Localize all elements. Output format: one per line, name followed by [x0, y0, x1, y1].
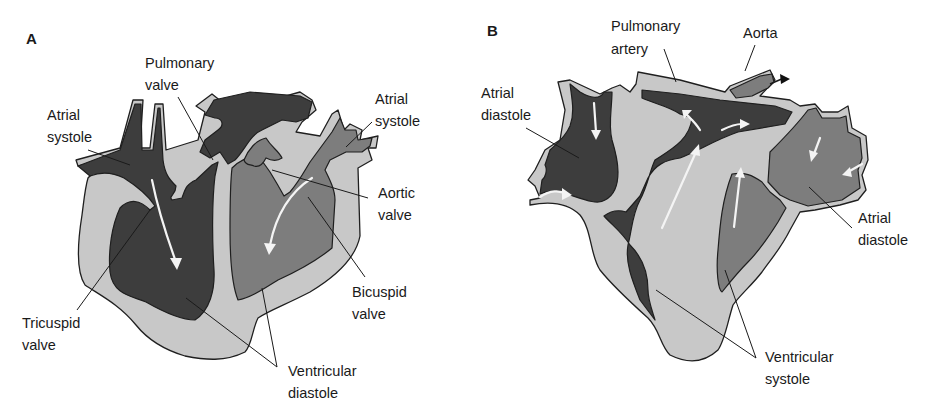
- panel-a-letter: A: [26, 30, 37, 47]
- label-atrial-diastole-left: Atrial diastole: [481, 85, 531, 123]
- label-aorta: Aorta: [743, 25, 779, 41]
- panel-b: B Pulmonary ar: [481, 18, 908, 387]
- leader-aorta: [745, 45, 755, 71]
- label-bicuspid-valve: Bicuspid valve: [352, 284, 411, 322]
- label-aortic-valve: Aortic valve: [378, 185, 419, 223]
- panel-b-letter: B: [487, 22, 498, 39]
- label-atrial-diastole-right: Atrial diastole: [858, 210, 908, 248]
- label-atrial-systole-right: Atrial systole: [375, 91, 420, 129]
- label-atrial-systole-left: Atrial systole: [47, 107, 92, 145]
- panel-a: A Pulmonary valve Atrial systole Atrial …: [22, 30, 420, 401]
- heart-cycle-diagram: A Pulmonary valve Atrial systole Atrial …: [0, 0, 928, 415]
- panel-b-aorta-outflow-arrowhead: [780, 74, 790, 84]
- label-ventricular-systole: Ventricular systole: [765, 349, 838, 387]
- label-tricuspid-valve: Tricuspid valve: [22, 315, 84, 353]
- label-pulmonary-artery: Pulmonary artery: [611, 18, 684, 57]
- label-pulmonary-valve: Pulmonary valve: [145, 55, 218, 93]
- label-ventricular-diastole: Ventricular diastole: [288, 363, 361, 401]
